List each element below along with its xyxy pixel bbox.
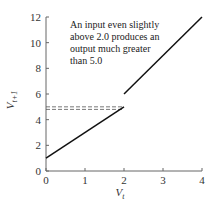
x-tick-label: 0 <box>43 174 49 186</box>
reference-lines <box>46 107 124 110</box>
y-tick-label: 6 <box>36 88 42 100</box>
svg-text:Vt+1: Vt+1 <box>4 91 19 109</box>
y-tick-label: 4 <box>36 114 42 126</box>
svg-text:Vt: Vt <box>116 186 126 201</box>
annotation: An input even slightlyabove 2.0 produces… <box>70 19 159 66</box>
y-tick-label: 12 <box>30 11 41 23</box>
x-tick-label: 3 <box>160 174 166 186</box>
x-axis-label: Vt <box>116 186 126 201</box>
annotation-line: than 5.0 <box>70 55 102 66</box>
annotation-line: An input even slightly <box>70 19 159 30</box>
chart: 01234024681012 An input even slightlyabo… <box>0 0 215 208</box>
x-tick-label: 4 <box>199 174 205 186</box>
y-tick-label: 0 <box>36 165 42 177</box>
y-axis-label: Vt+1 <box>4 91 19 109</box>
x-tick-label: 2 <box>121 174 127 186</box>
y-tick-label: 2 <box>36 139 42 151</box>
x-tick-label: 1 <box>82 174 88 186</box>
annotation-line: output much greater <box>70 43 151 54</box>
series-segment-1 <box>46 107 124 158</box>
y-tick-label: 8 <box>36 62 42 74</box>
annotation-line: above 2.0 produces an <box>70 31 159 42</box>
y-tick-label: 10 <box>30 37 42 49</box>
